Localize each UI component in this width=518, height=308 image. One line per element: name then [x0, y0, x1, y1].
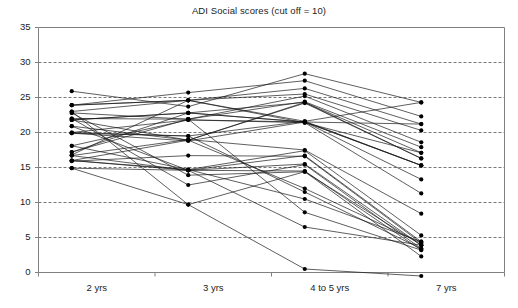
x-tick-label: 4 to 5 yrs [272, 282, 389, 293]
data-point [186, 173, 190, 177]
data-point [186, 91, 190, 95]
series-line [72, 100, 422, 121]
data-point [186, 138, 190, 142]
data-point [303, 267, 307, 271]
data-point [303, 94, 307, 98]
data-point [303, 225, 307, 229]
x-tick-label: 2 yrs [39, 282, 156, 293]
y-tick-label: 35 [5, 21, 31, 32]
plot-area [0, 0, 518, 308]
data-point [419, 163, 423, 167]
y-tick-label: 30 [5, 56, 31, 67]
series-lines [72, 74, 422, 276]
data-point [303, 163, 307, 167]
x-tick-label: 3 yrs [155, 282, 272, 293]
data-point [419, 233, 423, 237]
data-point [186, 168, 190, 172]
data-point [419, 122, 423, 126]
data-point [186, 111, 190, 115]
series-line [72, 133, 422, 249]
data-point [419, 156, 423, 160]
gridlines [39, 63, 505, 238]
data-point [303, 100, 307, 104]
data-point [303, 121, 307, 125]
data-point [70, 109, 74, 113]
data-point [70, 89, 74, 93]
series-line [72, 74, 422, 107]
data-point [186, 105, 190, 109]
y-tick-label: 20 [5, 126, 31, 137]
data-point [186, 98, 190, 102]
data-point [419, 254, 423, 258]
data-point [303, 154, 307, 158]
data-point [303, 170, 307, 174]
data-point [186, 154, 190, 158]
data-point [303, 149, 307, 153]
data-point [70, 158, 74, 162]
data-point [186, 134, 190, 138]
y-tick-label: 10 [5, 196, 31, 207]
axis-lines [35, 28, 505, 277]
data-point [419, 128, 423, 132]
data-point [303, 190, 307, 194]
data-point [419, 151, 423, 155]
data-point [419, 212, 423, 216]
data-point [70, 103, 74, 107]
series-line [72, 156, 422, 244]
data-point [186, 183, 190, 187]
data-point [70, 166, 74, 170]
y-tick-label: 5 [5, 231, 31, 242]
data-point [419, 243, 423, 247]
data-point [70, 130, 74, 134]
y-tick-label: 0 [5, 266, 31, 277]
y-tick-label: 25 [5, 91, 31, 102]
data-point [70, 154, 74, 158]
data-point [419, 248, 423, 252]
data-point [303, 197, 307, 201]
y-tick-label: 15 [5, 161, 31, 172]
data-point [303, 72, 307, 76]
chart-figure: ADI Social scores (cut off = 10) 0510152… [0, 0, 518, 308]
data-point [419, 274, 423, 278]
series-line [72, 120, 422, 243]
data-point [303, 86, 307, 90]
data-point [419, 145, 423, 149]
series-line [72, 102, 422, 148]
data-point [303, 79, 307, 83]
data-point [419, 100, 423, 104]
x-tick-label: 7 yrs [388, 282, 505, 293]
data-point [70, 118, 74, 122]
data-point [419, 177, 423, 181]
data-point [419, 114, 423, 118]
data-point [419, 191, 423, 195]
data-point [70, 124, 74, 128]
data-point [186, 118, 190, 122]
data-point [186, 203, 190, 207]
series-line [72, 119, 422, 249]
data-point [70, 144, 74, 148]
data-point [303, 210, 307, 214]
data-point [419, 140, 423, 144]
